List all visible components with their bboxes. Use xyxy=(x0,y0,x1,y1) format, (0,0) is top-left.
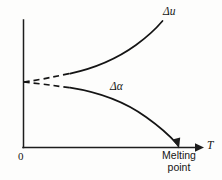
figure-container: Δu Δα T 0 Melting point xyxy=(0,0,222,180)
origin-label: 0 xyxy=(18,150,24,162)
delta-alpha-label: Δα xyxy=(110,80,123,93)
melting-point-tick-label: Melting point xyxy=(148,150,210,174)
delta-alpha-curve xyxy=(70,88,177,144)
delta-alpha-dashed-segment xyxy=(24,82,72,88)
delta-u-curve xyxy=(70,21,163,74)
delta-u-dashed-segment xyxy=(24,73,72,82)
melting-point-line-1: Melting xyxy=(148,150,210,162)
delta-u-label: Δu xyxy=(163,5,176,18)
melting-point-line-2: point xyxy=(148,162,210,174)
